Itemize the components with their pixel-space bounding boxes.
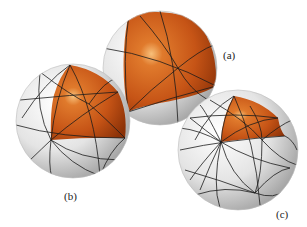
label-b: (b)	[64, 190, 77, 202]
triangulated-spheres-figure	[0, 0, 307, 227]
label-c: (c)	[276, 208, 288, 220]
sphere-c	[178, 90, 298, 210]
sphere-b	[16, 64, 130, 178]
label-a: (a)	[223, 49, 235, 61]
